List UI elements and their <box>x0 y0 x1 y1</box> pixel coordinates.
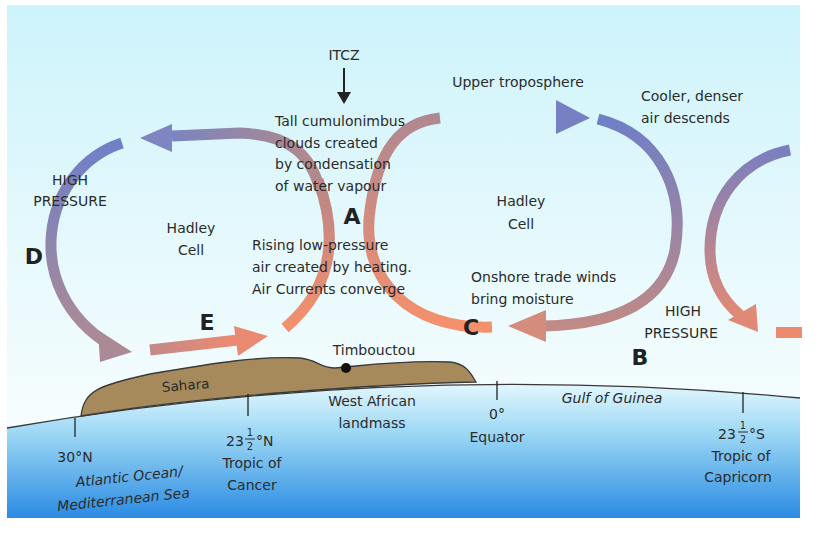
itcz-label: ITCZ <box>328 47 359 63</box>
svg-text:1: 1 <box>740 420 746 431</box>
svg-text:Air Currents converge: Air Currents converge <box>252 281 405 297</box>
hadley-cell-diagram: ITCZ Upper troposphere Tall cumulonimbus… <box>0 0 819 535</box>
timbouctou-label: Timbouctou <box>332 342 416 358</box>
point-c-label: C <box>463 315 479 340</box>
svg-text:Cell: Cell <box>508 216 534 232</box>
svg-text:Cancer: Cancer <box>227 477 277 493</box>
svg-text:Hadley: Hadley <box>167 220 216 236</box>
upper-troposphere-label: Upper troposphere <box>452 74 584 90</box>
svg-text:23: 23 <box>226 433 244 449</box>
svg-text:HIGH: HIGH <box>52 172 88 188</box>
svg-text:Rising low-pressure: Rising low-pressure <box>252 237 388 253</box>
svg-text:air descends: air descends <box>641 110 730 126</box>
point-b-label: B <box>632 345 649 370</box>
svg-text:PRESSURE: PRESSURE <box>33 193 107 209</box>
svg-text:bring moisture: bring moisture <box>471 291 574 307</box>
svg-text:23: 23 <box>718 426 736 442</box>
svg-text:0°: 0° <box>489 406 505 422</box>
svg-text:air created by heating.: air created by heating. <box>252 259 412 275</box>
svg-text:°N: °N <box>256 433 273 449</box>
svg-text:landmass: landmass <box>338 415 405 431</box>
svg-text:Onshore trade winds: Onshore trade winds <box>471 269 616 285</box>
svg-text:Cooler, denser: Cooler, denser <box>641 88 743 104</box>
svg-text:Tropic of: Tropic of <box>711 448 772 464</box>
lat-30n-label: 30°N <box>57 449 92 465</box>
svg-text:by condensation: by condensation <box>275 156 391 172</box>
gulf-of-guinea-label: Gulf of Guinea <box>562 390 663 406</box>
svg-text:clouds created: clouds created <box>275 135 378 151</box>
svg-text:West African: West African <box>328 393 416 409</box>
svg-text:2: 2 <box>247 441 253 452</box>
svg-text:2: 2 <box>740 434 746 445</box>
svg-text:PRESSURE: PRESSURE <box>644 325 718 341</box>
point-e-label: E <box>199 310 214 335</box>
svg-text:Hadley: Hadley <box>497 193 546 209</box>
point-a-label: A <box>343 204 360 229</box>
svg-text:HIGH: HIGH <box>665 303 701 319</box>
svg-text:°S: °S <box>749 426 765 442</box>
lat-tropic-cancer-label: 23 1 2 °N Tropic of Cancer <box>222 427 283 493</box>
timbouctou-marker <box>341 363 351 373</box>
svg-text:of water vapour: of water vapour <box>275 178 386 194</box>
svg-text:Equator: Equator <box>470 429 525 445</box>
far-right-arrow-stub <box>776 327 802 338</box>
svg-text:Cell: Cell <box>178 242 204 258</box>
point-d-label: D <box>25 244 43 269</box>
rising-air-note: Rising low-pressure air created by heati… <box>252 237 412 297</box>
svg-text:Capricorn: Capricorn <box>704 469 772 485</box>
svg-text:Tropic of: Tropic of <box>222 455 283 471</box>
svg-text:1: 1 <box>247 427 253 438</box>
svg-text:Tall cumulonimbus: Tall cumulonimbus <box>274 113 405 129</box>
